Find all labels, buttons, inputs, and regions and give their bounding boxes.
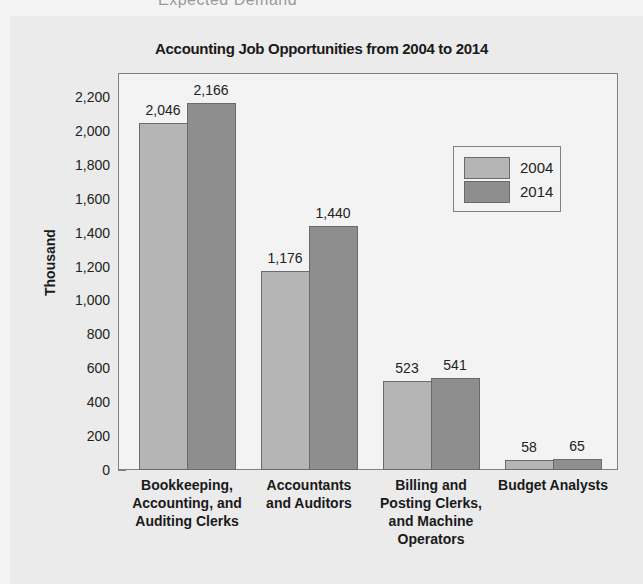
legend-label-2014: 2014 <box>520 183 553 200</box>
y-tick-label: 800 <box>60 326 110 342</box>
bar-value-label: 65 <box>537 438 617 454</box>
bar-value-label: 1,440 <box>293 205 373 221</box>
page-heading-fragment: Expected Demand <box>158 0 297 9</box>
y-tick-label: 400 <box>60 394 110 410</box>
y-tick-label: 1,400 <box>60 225 110 241</box>
bar-2004 <box>383 381 432 470</box>
bar-2014 <box>309 226 358 470</box>
bar-2014 <box>553 459 602 470</box>
legend: 2004 2014 <box>453 146 561 212</box>
y-tick-label: 1,000 <box>60 292 110 308</box>
x-category-label: Bookkeeping, Accounting, and Auditing Cl… <box>122 476 252 530</box>
x-category-label: Budget Analysts <box>488 476 618 494</box>
legend-swatch-2014 <box>464 181 510 203</box>
bar-2004 <box>505 460 554 470</box>
y-tick-label: 0 <box>60 462 110 478</box>
x-category-label: Billing and Posting Clerks, and Machine … <box>366 476 496 548</box>
y-tick-label: 200 <box>60 428 110 444</box>
y-tick-label: 600 <box>60 360 110 376</box>
legend-label-2004: 2004 <box>520 159 553 176</box>
bar-value-label: 2,166 <box>171 82 251 98</box>
bar-value-label: 541 <box>415 357 495 373</box>
y-tick-label: 1,200 <box>60 259 110 275</box>
y-tick-label: 2,200 <box>60 89 110 105</box>
bar-2004 <box>261 271 310 470</box>
bar-2014 <box>187 103 236 470</box>
bar-2004 <box>139 123 188 470</box>
bar-2014 <box>431 378 480 470</box>
y-axis-label: Thousand <box>42 236 58 296</box>
y-tick-label: 2,000 <box>60 123 110 139</box>
legend-swatch-2004 <box>464 157 510 179</box>
x-category-label: Accountants and Auditors <box>244 476 374 512</box>
chart-title: Accounting Job Opportunities from 2004 t… <box>0 40 643 57</box>
y-tick-label: 1,600 <box>60 191 110 207</box>
y-tick-label: 1,800 <box>60 157 110 173</box>
y-tick-mark <box>118 470 126 471</box>
